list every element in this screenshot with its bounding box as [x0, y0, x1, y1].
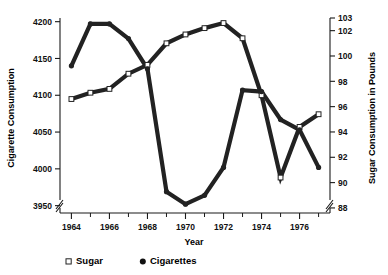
- data-marker-cigarettes: [259, 89, 264, 94]
- data-marker-sugar: [107, 87, 112, 92]
- data-marker-cigarettes: [88, 21, 93, 26]
- data-marker-sugar: [202, 26, 207, 31]
- data-marker-sugar: [88, 90, 93, 95]
- data-marker-sugar: [164, 41, 169, 46]
- y-tick-label-right: 102: [338, 26, 352, 36]
- y-axis-right-title: Sugar Consumption in Pounds: [367, 52, 377, 184]
- data-marker-cigarettes: [240, 88, 245, 93]
- y-tick-label-right: 103: [338, 13, 352, 23]
- x-tick-label: 1964: [62, 222, 81, 232]
- data-marker-sugar: [183, 32, 188, 37]
- legend-label-sugar: Sugar: [76, 255, 103, 266]
- data-marker-cigarettes: [107, 21, 112, 26]
- data-marker-sugar: [240, 36, 245, 41]
- data-marker-cigarettes: [221, 165, 226, 170]
- y-tick-label-right: 90: [338, 178, 348, 188]
- y-tick-label-left: 4100: [33, 90, 52, 100]
- data-markers-group: [69, 21, 321, 207]
- x-tick-label: 1970: [176, 222, 195, 232]
- dual-axis-line-chart: 3950400040504100415042008890929496981001…: [0, 0, 388, 275]
- data-marker-sugar: [69, 97, 74, 102]
- y-tick-label-right: 100: [338, 51, 352, 61]
- data-marker-cigarettes: [69, 63, 74, 68]
- y-tick-label-right: 98: [338, 77, 348, 87]
- x-axis-title: Year: [184, 237, 204, 247]
- y-tick-label-left: 4000: [33, 164, 52, 174]
- data-marker-cigarettes: [164, 189, 169, 194]
- y-axis-left-title: Cigarette Consumption: [6, 68, 16, 168]
- ticks-group: [55, 18, 335, 219]
- data-marker-cigarettes: [278, 117, 283, 122]
- y-tick-label-left: 3950: [33, 201, 52, 211]
- x-tick-label: 1972: [214, 222, 233, 232]
- series-line-sugar: [71, 23, 318, 177]
- data-marker-cigarettes: [316, 165, 321, 170]
- legend-label-cigarettes: Cigarettes: [150, 255, 196, 266]
- data-marker-cigarettes: [297, 127, 302, 132]
- x-tick-label: 1974: [252, 222, 271, 232]
- data-marker-cigarettes: [145, 66, 150, 71]
- y-tick-label-left: 4150: [33, 54, 52, 64]
- chart-container: 3950400040504100415042008890929496981001…: [0, 0, 388, 275]
- data-marker-cigarettes: [126, 36, 131, 41]
- legend-marker-cigarettes: [140, 258, 146, 264]
- y-tick-label-left: 4200: [33, 17, 52, 27]
- legend-marker-sugar: [66, 259, 71, 264]
- plot-area: 3950400040504100415042008890929496981001…: [33, 13, 352, 232]
- data-marker-cigarettes: [183, 202, 188, 207]
- axes-group: [56, 18, 333, 213]
- x-tick-label: 1976: [290, 222, 309, 232]
- y-tick-label-right: 88: [338, 203, 348, 213]
- x-tick-label: 1966: [100, 222, 119, 232]
- y-tick-label-right: 96: [338, 102, 348, 112]
- y-tick-label-right: 94: [338, 127, 348, 137]
- data-marker-sugar: [316, 112, 321, 117]
- y-tick-label-right: 92: [338, 152, 348, 162]
- data-marker-cigarettes: [202, 193, 207, 198]
- x-tick-label: 1968: [138, 222, 157, 232]
- data-marker-sugar: [278, 175, 283, 180]
- legend: SugarCigarettes: [66, 255, 196, 266]
- data-marker-sugar: [126, 71, 131, 76]
- y-tick-label-left: 4050: [33, 127, 52, 137]
- data-marker-sugar: [221, 21, 226, 26]
